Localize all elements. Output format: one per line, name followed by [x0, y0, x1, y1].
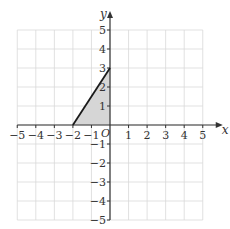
x-tick-label: 1: [125, 129, 132, 142]
x-tick-label: 5: [199, 129, 206, 142]
x-tick-label: −3: [46, 129, 62, 142]
x-tick-label: 2: [144, 129, 151, 142]
x-tick-label: −4: [28, 129, 44, 142]
y-tick-label: −4: [90, 195, 106, 208]
y-tick-label: 2: [99, 81, 106, 94]
x-tick-label: −2: [65, 129, 81, 142]
coordinate-plane: −5−4−3−2−112345−5−4−3−2−112345 x y O: [0, 0, 230, 229]
x-tick-label: 3: [162, 129, 169, 142]
y-tick-label: −3: [90, 176, 106, 189]
y-tick-label: 4: [99, 43, 106, 56]
x-tick-label: −5: [9, 129, 25, 142]
y-tick-label: 1: [99, 100, 106, 113]
y-axis-label: y: [99, 7, 107, 21]
y-tick-label: 5: [99, 24, 106, 37]
y-tick-label: −5: [90, 214, 106, 227]
x-tick-label: 4: [181, 129, 188, 142]
x-axis-label: x: [222, 123, 229, 137]
y-axis-arrow-icon: [107, 11, 113, 18]
axes: [17, 11, 223, 220]
origin-label: O: [101, 127, 110, 140]
y-tick-label: 3: [99, 62, 106, 75]
y-tick-label: −2: [90, 157, 106, 170]
